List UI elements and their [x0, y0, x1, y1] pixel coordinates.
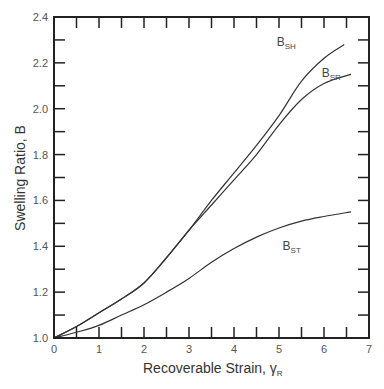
curve-labels: BSHBSRBST: [277, 35, 341, 255]
y-tick-label: 1.2: [33, 286, 48, 298]
swelling-ratio-chart: 012345671.01.21.41.61.82.02.22.4 BSHBSRB…: [0, 0, 384, 389]
curve-label-bsh: BSH: [277, 35, 296, 51]
curves: [54, 45, 351, 338]
y-tick-label: 2.2: [33, 57, 48, 69]
curve-bsr: [54, 74, 351, 338]
x-tick-label: 1: [96, 343, 102, 355]
x-tick-label: 2: [141, 343, 147, 355]
y-tick-label: 1.8: [33, 149, 48, 161]
tick-labels: 012345671.01.21.41.61.82.02.22.4: [33, 11, 372, 355]
x-tick-label: 3: [186, 343, 192, 355]
x-axis-title: Recoverable Strain, γR: [143, 360, 283, 378]
y-tick-label: 1.0: [33, 332, 48, 344]
x-tick-label: 0: [51, 343, 57, 355]
curve-bst: [54, 212, 351, 338]
y-tick-label: 2.0: [33, 103, 48, 115]
x-tick-label: 4: [231, 343, 237, 355]
curve-label-bsr: BSR: [322, 66, 341, 82]
x-tick-label: 7: [366, 343, 372, 355]
y-tick-label: 1.6: [33, 194, 48, 206]
y-tick-label: 1.4: [33, 240, 48, 252]
y-tick-label: 2.4: [33, 11, 48, 23]
curve-bsh: [54, 45, 344, 338]
x-tick-label: 6: [321, 343, 327, 355]
y-axis-title: Swelling Ratio, B: [12, 125, 28, 231]
x-tick-label: 5: [276, 343, 282, 355]
curve-label-bst: BST: [283, 239, 301, 255]
